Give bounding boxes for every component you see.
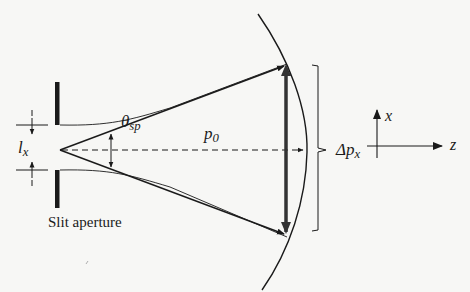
- momentum-label: p0: [204, 124, 219, 146]
- momentum-spread-label: Δpx: [336, 140, 360, 162]
- detection-screen-arc: [258, 14, 307, 290]
- slit-width-subscript: x: [23, 145, 29, 159]
- slit-width-label: lx: [18, 138, 28, 160]
- z-axis-label: z: [450, 136, 456, 154]
- coordinate-axes: [367, 110, 442, 158]
- x-axis-label: x: [385, 107, 392, 125]
- spread-angle-label: θsp: [121, 112, 141, 134]
- p-subscript: 0: [213, 131, 219, 145]
- diffraction-diagram: [0, 0, 470, 292]
- slit-upper-jaw: [55, 82, 60, 125]
- slit-lower-jaw: [55, 170, 60, 208]
- slit-aperture-caption: Slit aperture: [48, 214, 122, 231]
- scan-artifact: [86, 261, 88, 264]
- momentum-spread-bar: [281, 64, 291, 234]
- theta-subscript: sp: [129, 119, 140, 133]
- delta-p-symbol: Δp: [336, 140, 354, 159]
- p-symbol: p: [204, 124, 213, 143]
- slit-aperture: [55, 82, 60, 208]
- delta-p-subscript: x: [354, 147, 360, 161]
- delta-px-bracket: [312, 65, 326, 231]
